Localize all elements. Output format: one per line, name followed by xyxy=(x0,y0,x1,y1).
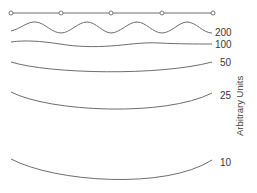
curve-25-path xyxy=(11,92,212,109)
curve-200-path xyxy=(11,22,212,33)
node-marker-icon xyxy=(109,11,113,15)
curve-label-50: 50 xyxy=(220,57,232,68)
curve-50-path xyxy=(11,62,212,72)
node-marker-icon xyxy=(160,11,164,15)
curve-label-100: 100 xyxy=(215,39,232,50)
curve-200: 200 xyxy=(11,22,232,38)
waveform-diagram: 200 100 50 25 10 Arbitrary Units xyxy=(0,0,257,193)
curve-25: 25 xyxy=(11,90,232,109)
node-marker-icon xyxy=(59,11,63,15)
curve-label-200: 200 xyxy=(215,27,232,38)
axis-label: Arbitrary Units xyxy=(234,76,245,136)
reference-line xyxy=(9,11,215,15)
curve-100-path xyxy=(11,41,212,47)
node-marker-icon xyxy=(211,11,215,15)
curve-50: 50 xyxy=(11,57,232,72)
curve-100: 100 xyxy=(11,39,232,50)
node-marker-icon xyxy=(9,11,13,15)
curve-10-path xyxy=(11,159,212,180)
curve-10: 10 xyxy=(11,157,232,180)
curve-label-25: 25 xyxy=(220,90,232,101)
curve-label-10: 10 xyxy=(220,157,232,168)
